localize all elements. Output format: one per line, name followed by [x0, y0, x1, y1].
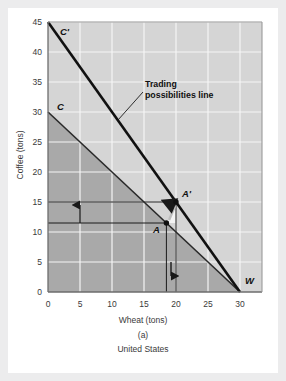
- y-tick-10: 10: [22, 227, 42, 237]
- data-point-a: [164, 220, 169, 225]
- y-tick-45: 45: [22, 17, 42, 27]
- y-tick-40: 40: [22, 47, 42, 57]
- panel-letter: (a): [0, 330, 286, 340]
- panel-title: United States: [0, 344, 286, 354]
- label-c-prime: C': [60, 26, 69, 37]
- x-tick-0: 0: [37, 299, 59, 309]
- x-tick-25: 25: [197, 299, 219, 309]
- y-tick-25: 25: [22, 137, 42, 147]
- chart-figure: 45 40 35 30 25 20 15 10 5 0 0 5 10 15 20…: [0, 0, 286, 381]
- y-tick-35: 35: [22, 77, 42, 87]
- y-axis-title: Coffee (tons): [15, 115, 25, 195]
- x-tick-5: 5: [69, 299, 91, 309]
- y-tick-0: 0: [22, 287, 42, 297]
- x-tick-30: 30: [229, 299, 251, 309]
- x-tick-10: 10: [101, 299, 123, 309]
- x-tick-15: 15: [133, 299, 155, 309]
- y-tick-15: 15: [22, 197, 42, 207]
- y-tick-20: 20: [22, 167, 42, 177]
- trading-line-annotation: Trading possibilities line: [145, 79, 213, 100]
- label-point-a: A: [153, 224, 160, 235]
- label-point-a-prime: A': [182, 188, 191, 199]
- annotation-line-1: Trading: [145, 79, 213, 90]
- label-w: W: [245, 275, 254, 286]
- y-tick-30: 30: [22, 107, 42, 117]
- label-c: C: [57, 101, 64, 112]
- annotation-line-2: possibilities line: [145, 90, 213, 101]
- x-axis-title: Wheat (tons): [0, 315, 286, 325]
- data-point-a-prime: [173, 199, 178, 204]
- x-tick-20: 20: [165, 299, 187, 309]
- y-tick-5: 5: [22, 257, 42, 267]
